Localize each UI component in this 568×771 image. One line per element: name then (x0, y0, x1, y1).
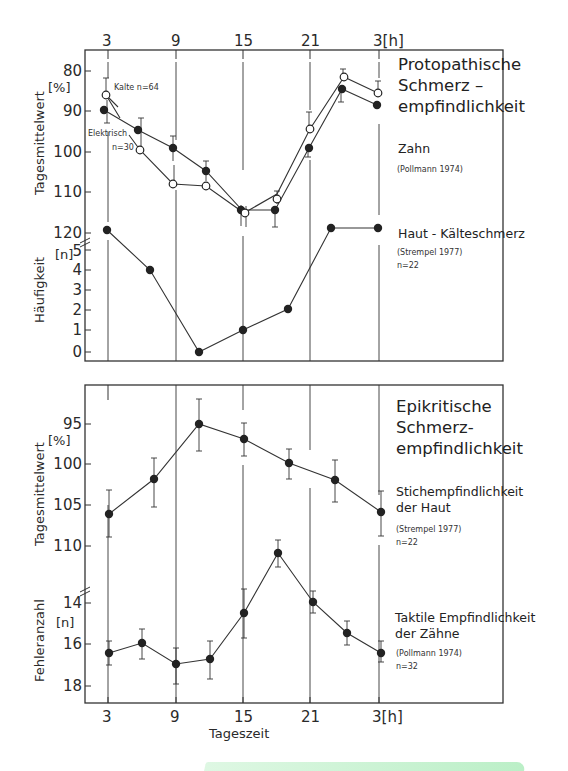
y-axis-label-fehleranzahl: Fehleranzahl (32, 599, 47, 682)
top-x-tick-labels: 3 9 15 21 3[h] (102, 32, 404, 50)
circadian-pain-chart: 3 9 15 21 3[h] (0, 0, 568, 771)
label-haut-source: (Strempel 1977) (397, 248, 462, 257)
scan-stain (204, 762, 526, 771)
y-tick-110-lower: 110 (53, 537, 82, 555)
y-tick-80: 80 (63, 62, 82, 80)
y-tick-110: 110 (53, 183, 82, 201)
label-stich-n: n=22 (396, 538, 418, 547)
y-tick-100-lower: 100 (53, 455, 82, 473)
y-unit-percent: [%] (48, 80, 71, 95)
lower-title-line2: Schmerz- (396, 418, 474, 437)
label-stich-source: (Strempel 1977) (396, 525, 461, 534)
lower-title-line1: Epikritische (396, 397, 492, 416)
y-tick-2: 2 (72, 301, 82, 319)
label-taktile-line2: der Zähne (395, 626, 460, 641)
x-tick-3h-bottom: 3[h] (372, 708, 403, 726)
y-tick-5: 5 (72, 242, 82, 260)
legend-elektrisch-n: n=30 (112, 143, 134, 152)
upper-title-line3: empfindlichkeit (398, 97, 525, 116)
lower-y-ticks-count: 14 [n] 16 18 (56, 594, 82, 695)
label-stich-line1: Stichempfindlichkeit (396, 484, 523, 499)
taktile-markers (105, 549, 385, 668)
stich-markers (105, 420, 385, 518)
y-unit-n-lower: [n] (56, 615, 74, 630)
x-tick-15: 15 (234, 32, 253, 50)
y-axis-label-haeufigkeit: Häufigkeit (32, 257, 47, 323)
stich-error-bars (106, 399, 384, 537)
label-zahn: Zahn (398, 141, 430, 156)
label-stich-line2: der Haut (396, 500, 451, 515)
upper-title-line2: Schmerz – (398, 76, 483, 95)
x-tick-21-bottom: 21 (301, 708, 320, 726)
x-axis-label-tageszeit: Tageszeit (208, 726, 269, 741)
y-tick-1: 1 (72, 321, 82, 339)
bottom-x-tick-labels: 3 9 15 21 3[h] Tageszeit (102, 708, 403, 741)
y-tick-95: 95 (63, 415, 82, 433)
label-taktile-line1: Taktile Empfindlichkeit (394, 610, 535, 625)
y-tick-18: 18 (63, 677, 82, 695)
y-tick-4: 4 (72, 261, 82, 279)
x-tick-21: 21 (301, 32, 320, 50)
upper-annotations: Protopathische Schmerz – empfindlichkeit… (397, 55, 525, 270)
y-tick-14: 14 (63, 594, 82, 612)
kalte-markers (102, 73, 382, 217)
x-tick-3h: 3[h] (373, 32, 404, 50)
y-tick-3: 3 (72, 281, 82, 299)
y-tick-16: 16 (63, 635, 82, 653)
label-zahn-source: (Pollmann 1974) (397, 165, 463, 174)
y-tick-90: 90 (63, 102, 82, 120)
y-tick-100: 100 (53, 143, 82, 161)
y-tick-120: 120 (53, 224, 82, 242)
x-tick-3: 3 (102, 32, 112, 50)
y-axis-label-tagesmittelwert: Tagesmittelwert (32, 91, 47, 196)
legend-kalte: Kalte n=64 (114, 83, 159, 92)
haut-markers (103, 224, 382, 356)
y-tick-105: 105 (53, 496, 82, 514)
upper-y-ticks-percent: 80 [%] 90 100 110 120 (48, 62, 82, 242)
zahn-error-bars (103, 69, 381, 227)
lower-y-ticks-percent: 95 [%] 100 105 110 (48, 415, 82, 555)
lower-annotations: Epikritische Schmerz- empfindlichkeit St… (394, 397, 535, 671)
label-taktile-n: n=32 (396, 662, 418, 671)
lower-title-line3: empfindlichkeit (396, 439, 523, 458)
y-axis-label-tagesmittelwert-lower: Tagesmittelwert (32, 442, 47, 547)
label-haut-n: n=22 (397, 261, 419, 270)
y-tick-0: 0 (72, 343, 82, 361)
y-unit-n: [n] (55, 247, 73, 262)
label-taktile-source: (Pollmann 1974) (396, 649, 462, 658)
x-tick-15-bottom: 15 (234, 708, 253, 726)
series-elektrisch-line (104, 89, 377, 210)
label-haut-kaelteschmerz: Haut - Kälteschmerz (398, 226, 525, 241)
upper-title-line1: Protopathische (398, 55, 521, 74)
upper-y-ticks-count: [n] 5 4 3 2 1 0 (55, 242, 82, 361)
x-tick-3-bottom: 3 (102, 708, 112, 726)
series-taktile-line (109, 553, 381, 664)
x-tick-9-bottom: 9 (170, 708, 180, 726)
legend-elektrisch: Elektrisch (88, 129, 127, 138)
y-unit-percent-lower: [%] (48, 433, 71, 448)
x-tick-9: 9 (171, 32, 181, 50)
